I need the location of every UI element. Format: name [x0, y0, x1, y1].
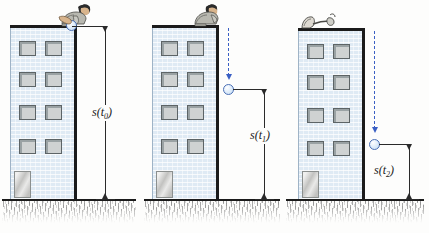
panel-2: s(t1): [142, 0, 282, 233]
height-label-t1-text: s(t: [250, 128, 262, 142]
window: [161, 139, 178, 154]
ground-texture: [286, 201, 424, 223]
hand-icon: [58, 14, 76, 30]
dimension-tick-bottom: [255, 199, 274, 200]
height-label-t1-close: ): [266, 128, 270, 142]
height-label-t0-close: ): [108, 105, 112, 119]
dimension-arrowhead-top: [102, 26, 108, 32]
window: [333, 44, 350, 59]
window: [187, 139, 204, 154]
window: [307, 44, 324, 59]
height-label-t2-close: ): [390, 163, 394, 177]
building-door: [302, 171, 319, 198]
window: [45, 139, 62, 154]
window: [45, 72, 62, 87]
building-right-wall: [74, 25, 77, 199]
window: [45, 41, 62, 56]
window: [333, 75, 350, 90]
ground-texture: [144, 201, 280, 223]
building-left-edge: [10, 27, 11, 199]
falling-ball-figure: s(t0): [0, 0, 429, 233]
ground-texture: [2, 201, 136, 223]
person-watching-icon: [186, 2, 228, 28]
ball-trajectory-dashed-line: [228, 28, 229, 76]
dimension-tick-bottom: [96, 199, 115, 200]
height-label-t0-text: s(t: [92, 105, 104, 119]
window: [19, 41, 36, 56]
window: [45, 105, 62, 120]
window: [333, 141, 350, 156]
window: [307, 75, 324, 90]
window: [19, 139, 36, 154]
person-standing-back-icon: [300, 10, 346, 32]
ball-trajectory-arrowhead: [226, 74, 232, 80]
window: [187, 41, 204, 56]
height-label-t2-text: s(t: [374, 163, 386, 177]
window: [187, 105, 204, 120]
building-left-edge: [298, 30, 299, 199]
window: [307, 141, 324, 156]
dimension-arrowhead-top: [261, 89, 267, 95]
height-label-t0: s(t0): [90, 105, 114, 121]
ball-trajectory-arrowhead: [372, 127, 378, 133]
building-right-wall: [216, 25, 219, 199]
window: [161, 105, 178, 120]
dimension-tick-bottom: [400, 199, 419, 200]
ball-trajectory-dashed-line: [374, 31, 375, 129]
window: [307, 108, 324, 123]
building-door: [14, 171, 31, 198]
height-label-t2: s(t2): [372, 163, 396, 179]
window: [19, 105, 36, 120]
panel-1: s(t0): [0, 0, 140, 233]
window: [161, 72, 178, 87]
window: [187, 72, 204, 87]
height-label-t1: s(t1): [248, 128, 272, 144]
dimension-tick-top: [72, 26, 106, 27]
window: [161, 41, 178, 56]
building-right-wall: [362, 28, 365, 199]
building-door: [156, 171, 173, 198]
dimension-line: [409, 144, 410, 199]
window: [333, 108, 350, 123]
panel-3: s(t2): [284, 0, 429, 233]
window: [19, 72, 36, 87]
building-left-edge: [152, 27, 153, 199]
dimension-arrowhead-top: [406, 144, 412, 150]
